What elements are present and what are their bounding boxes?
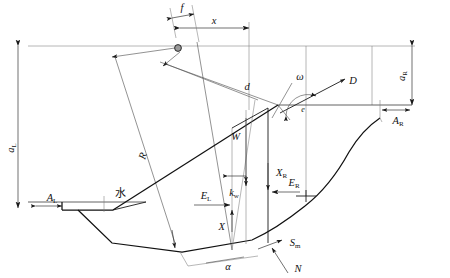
label-W: W <box>231 131 241 142</box>
diagram-canvas: aL aR x f <box>0 0 450 278</box>
force-E-left: EL <box>194 190 230 205</box>
label-omega: ω <box>296 71 303 82</box>
label-X-left: X <box>218 221 226 232</box>
label-group-R: R <box>136 151 149 162</box>
dimension-A-right: AR <box>380 100 410 128</box>
label-x: x <box>211 15 217 26</box>
dimension-x: x <box>180 15 249 28</box>
force-D: D <box>272 75 357 120</box>
angle-alpha: α <box>180 252 258 272</box>
label-f: f <box>181 2 186 13</box>
label-group-water: 水 <box>115 187 126 200</box>
force-Sm: Sm <box>258 237 301 250</box>
dimension-A-left: AL <box>36 192 62 206</box>
force-N: N <box>272 248 302 274</box>
label-E-right: ER <box>287 177 299 190</box>
dimension-a-right: aR <box>396 46 412 105</box>
label-a-left: aL <box>5 143 18 153</box>
label-D: D <box>348 75 357 86</box>
right-reference-verticals <box>249 22 372 196</box>
label-a-right: aR <box>396 71 409 81</box>
label-N: N <box>293 263 302 274</box>
pivot-node <box>175 45 182 52</box>
label-e: e <box>301 105 305 114</box>
dimension-f: f <box>170 2 199 42</box>
engineering-diagram: aL aR x f <box>0 0 450 278</box>
label-group-e: e <box>301 105 305 114</box>
label-E-left: EL <box>200 190 212 203</box>
label-kw: kw <box>229 187 240 200</box>
line-d: d <box>160 62 278 105</box>
label-alpha: α <box>225 261 231 272</box>
pivot-rays <box>112 42 258 250</box>
label-Sm: Sm <box>290 237 301 250</box>
label-A-right: AR <box>391 115 403 128</box>
force-X-left: X <box>218 210 232 232</box>
label-X-right: XR <box>275 167 287 180</box>
base-tick-left <box>172 230 175 248</box>
force-X-right: XR <box>268 163 287 190</box>
label-d: d <box>244 81 250 92</box>
dimension-a-left: aL <box>5 46 18 208</box>
label-R: R <box>136 151 149 162</box>
label-water: 水 <box>115 187 126 200</box>
failure-surface-base <box>78 206 305 252</box>
failure-surface-right <box>305 118 382 206</box>
label-A-left: AL <box>46 192 58 205</box>
force-kw: kw <box>228 176 246 200</box>
